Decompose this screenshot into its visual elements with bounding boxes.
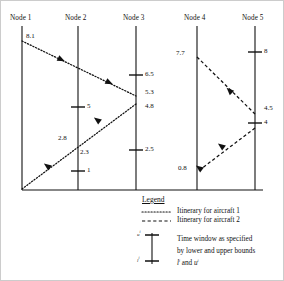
arrowhead-n1-n3-a — [57, 55, 67, 64]
arrowhead-n1-n3-b — [105, 78, 115, 87]
legend-lower-bound-symbol: li — [137, 256, 139, 263]
node-label-node2: Node 2 — [65, 14, 87, 22]
itinerary-label-0-8: 0.8 — [178, 164, 187, 172]
node-axes — [22, 26, 255, 190]
legend-upper-bound-symbol: ui — [137, 230, 141, 237]
arrowhead-n3-n2 — [92, 115, 102, 125]
node-label-node1: Node 1 — [10, 14, 32, 22]
arrowhead-n5-n4-upper — [224, 85, 234, 95]
itinerary-label-2-3: 2.3 — [80, 148, 89, 156]
tick-value-node3-upper: 6.5 — [145, 70, 154, 78]
node-label-node4: Node 4 — [184, 14, 206, 22]
timeline-diagram: Node 1 Node 2 Node 3 Node 4 Node 5 5 1 6… — [0, 0, 284, 281]
segment-n3-n1 — [22, 104, 136, 189]
arrowhead-n2-n1 — [42, 161, 52, 171]
segment-n4-n5 — [197, 57, 255, 114]
tick-value-node2-lower: 1 — [87, 166, 91, 174]
tick-value-node2-upper: 5 — [87, 102, 91, 110]
itinerary-label-2-8: 2.8 — [58, 134, 67, 142]
node-label-node5: Node 5 — [242, 14, 264, 22]
legend-line-samples — [142, 212, 171, 221]
itinerary-label-5-3: 5.3 — [145, 88, 154, 96]
legend-time-window-line1: Time window as specified — [177, 235, 252, 243]
arrowhead-n5-n4-lower — [216, 141, 226, 151]
itinerary-label-7-7: 7.7 — [176, 49, 185, 57]
segment-n5-n4 — [197, 128, 255, 172]
legend-title: Legend — [142, 195, 165, 204]
itinerary-aircraft-2 — [197, 57, 255, 172]
node-label-node3: Node 3 — [123, 14, 145, 22]
itinerary-label-4-5: 4.5 — [264, 104, 273, 112]
legend-entry-aircraft-2: Itinerary for aircraft 2 — [177, 216, 240, 224]
arrowhead-n4-terminal — [194, 163, 204, 173]
legend-entry-aircraft-1: Itinerary for aircraft 1 — [177, 207, 240, 215]
legend-time-window-line2: by lower and upper bounds — [177, 247, 255, 255]
legend-time-window-symbol — [145, 233, 159, 264]
itinerary-label-8-1: 8.1 — [26, 32, 35, 40]
segment-n1-n3 — [22, 41, 136, 96]
tick-value-node3-lower: 2.5 — [145, 145, 154, 153]
tick-value-node5-upper: 8 — [264, 47, 268, 55]
tick-value-node5-lower: 4 — [264, 118, 268, 126]
legend-time-window-line3: li and ui — [177, 259, 199, 267]
time-window-ticks — [71, 52, 262, 171]
itinerary-label-4-8: 4.8 — [145, 102, 154, 110]
itinerary-aircraft-1 — [22, 41, 136, 189]
